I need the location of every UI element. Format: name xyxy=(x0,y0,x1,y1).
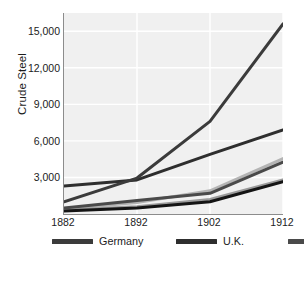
legend-item[interactable]: Germany xyxy=(52,236,176,247)
y-axis-tick-labels: 3,0006,0009,00012,00015,000 xyxy=(10,0,60,214)
x-axis-tick-labels: 1882189219021912 xyxy=(63,216,288,232)
plot-svg xyxy=(64,13,283,214)
x-tick-label: 1902 xyxy=(197,216,220,228)
y-tick-label: 12,000 xyxy=(16,63,60,73)
series-lines xyxy=(64,24,283,211)
legend-swatch xyxy=(288,239,304,243)
x-tick-label: 1882 xyxy=(51,216,74,228)
legend-label: Germany xyxy=(99,236,143,247)
chart-legend: GermanyU.K.FranceAustriaRussiaBelgium xyxy=(52,234,288,280)
series-line-france xyxy=(64,162,283,208)
legend-item[interactable]: U.K. xyxy=(176,236,288,247)
y-tick-label: 3,000 xyxy=(16,172,60,182)
x-tick-label: 1892 xyxy=(124,216,147,228)
y-tick-label: 15,000 xyxy=(16,26,60,36)
legend-label: U.K. xyxy=(223,236,244,247)
x-tick-label: 1912 xyxy=(270,216,293,228)
y-tick-label: 6,000 xyxy=(16,136,60,146)
plot-area xyxy=(63,13,283,215)
legend-item[interactable]: France xyxy=(288,236,304,247)
legend-swatch xyxy=(176,239,217,243)
crude-steel-line-chart: Crude Steel 3,0006,0009,00012,00015,000 … xyxy=(0,0,304,283)
legend-swatch xyxy=(52,239,93,243)
y-tick-label: 9,000 xyxy=(16,99,60,109)
